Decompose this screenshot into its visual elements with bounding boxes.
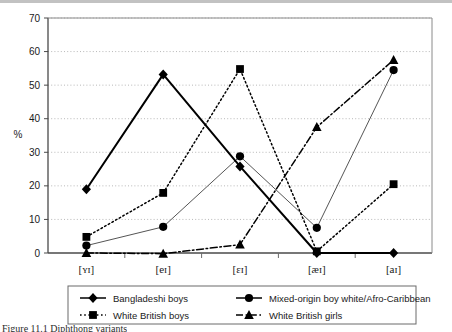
diphthong-variants-line-chart: 010203040506070%[ʏɪ][eɪ][ɛɪ][æɪ][aɪ]Bang… [0,0,452,332]
data-point-marker-square [89,311,97,319]
gridlines [48,18,432,219]
data-point-marker-triangle [235,240,245,249]
data-point-marker-circle [313,224,321,232]
x-category-label: [ʏɪ] [78,263,94,275]
y-axis-title: % [14,129,23,140]
data-point-marker-square [236,65,244,73]
chart-figure: 010203040506070%[ʏɪ][eɪ][ɛɪ][æɪ][aɪ]Bang… [0,0,452,332]
data-point-marker-square [83,233,91,241]
y-tick-label: 20 [29,180,41,191]
legend-item-label: Bangladeshi boys [113,293,188,304]
x-category-label: [æɪ] [308,263,326,275]
y-tick-label: 70 [29,13,41,24]
y-tick-label: 10 [29,214,41,225]
x-category-label: [eɪ] [156,263,171,275]
y-tick-label: 0 [34,248,40,259]
legend-item-label: White British boys [113,310,189,321]
x-category-label: [aɪ] [386,263,401,275]
data-point-marker-triangle [389,55,399,64]
x-axis-ticks: [ʏɪ][eɪ][ɛɪ][æɪ][aɪ] [78,253,401,275]
data-point-marker-circle [390,66,398,74]
y-axis-ticks: 010203040506070 [29,13,48,259]
y-tick-label: 50 [29,80,41,91]
series-0 [82,69,398,258]
legend-item-label: White British girls [269,310,343,321]
data-point-marker-square [159,189,167,197]
x-category-label: [ɛɪ] [232,263,247,275]
axes [48,18,432,253]
y-tick-label: 40 [29,113,41,124]
legend: Bangladeshi boysMixed-origin boy white/A… [68,286,431,324]
legend-item-label: Mixed-origin boy white/Afro-Caribbean [269,293,431,304]
data-point-marker-circle [245,294,253,302]
y-tick-label: 60 [29,46,41,57]
data-point-marker-circle [236,152,244,160]
data-point-marker-circle [159,223,167,231]
figure-caption: Figure 11.1 Diphthong variants [2,323,127,332]
data-point-marker-diamond [389,248,398,258]
data-point-marker-square [390,180,398,188]
page-top-rule [0,0,452,3]
y-tick-label: 30 [29,147,41,158]
